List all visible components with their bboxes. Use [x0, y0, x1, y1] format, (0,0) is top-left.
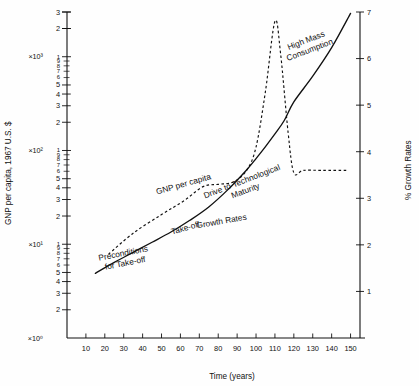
x-axis-tick-label: 140 — [325, 344, 337, 353]
x-axis-tick-label: 60 — [176, 344, 184, 353]
x-axis-tick-label: 120 — [288, 344, 300, 353]
y-axis-left-tick-label: 4 — [56, 90, 60, 99]
chart-annotation: High MassConsumption — [281, 27, 334, 63]
y-axis-left-tick-label: 3 — [56, 289, 60, 298]
y-axis-left-title: GNP per capita, 1967 U.S. $ — [4, 121, 13, 225]
y-axis-right-tick-label: 1 — [367, 287, 371, 296]
y-axis-left-tick-label: 1 — [57, 241, 60, 247]
y-axis-right-tick-label: 6 — [367, 54, 371, 63]
x-axis-tick-label: 150 — [344, 344, 356, 353]
y-axis-left-tick-label: 5 — [56, 174, 60, 183]
y-axis-left-tick-label: 3 — [56, 101, 60, 110]
x-axis-tick-label: 30 — [120, 344, 128, 353]
annotation-line: Growth Rates — [196, 212, 248, 231]
x-axis-tick-label: 100 — [250, 344, 262, 353]
y-axis-left-tick-label: 3 — [56, 8, 60, 17]
y-axis-left-tick-label: 4 — [56, 277, 60, 286]
y-axis-left-tick-label: 5 — [56, 80, 60, 89]
y-axis-left-tick-label: 1 — [57, 147, 60, 153]
y-axis-left-tick-label: 2 — [56, 212, 60, 221]
x-axis-tick-label: 20 — [101, 344, 109, 353]
y-axis-right-title: % Growth Rates — [404, 140, 413, 200]
y-axis-right-tick-label: 3 — [367, 194, 371, 203]
y-axis-left-tick-label: 5 — [56, 268, 60, 277]
x-axis-tick-label: 130 — [307, 344, 319, 353]
y-axis-decade-label: ×10³ — [28, 52, 43, 61]
y-axis-left-tick-label: 2 — [56, 305, 60, 314]
y-axis-left-tick-label: 4 — [56, 183, 60, 192]
y-axis-left-tick-label: 1 — [57, 54, 60, 60]
y-axis-left-tick-label: 2 — [56, 24, 60, 33]
y-axis-right-tick-label: 7 — [367, 8, 371, 17]
chart-annotation: Preconditionsfor Take-off — [98, 243, 151, 272]
y-axis-left-tick-label: 7 — [57, 68, 60, 74]
y-axis-left-tick-label: 6 — [57, 74, 61, 80]
x-axis-tick-label: 50 — [157, 344, 165, 353]
x-axis-tick-label: 80 — [214, 344, 222, 353]
y-axis-left-tick-label: 6 — [57, 168, 61, 174]
x-axis-tick-label: 90 — [233, 344, 241, 353]
y-axis-decade-label: ×10¹ — [28, 240, 43, 249]
x-axis-tick-label: 70 — [195, 344, 203, 353]
y-axis-decade-label: ×10⁰ — [28, 334, 43, 343]
x-axis-tick-label: 10 — [82, 344, 90, 353]
chart-annotations-group: Preconditionsfor Take-offTake-offGNP per… — [98, 27, 335, 273]
y-axis-left-tick-label: 6 — [57, 262, 61, 268]
y-axis-decade-label: ×10² — [28, 146, 43, 155]
x-axis-tick-label: 40 — [138, 344, 146, 353]
y-axis-left-tick-label: 7 — [57, 162, 60, 168]
rostow-growth-stages-chart: ×10⁰234567891×10¹234567891×10²234567891×… — [0, 0, 419, 386]
chart-container: ×10⁰234567891×10¹234567891×10²234567891×… — [0, 0, 419, 386]
y-axis-right-tick-label: 5 — [367, 101, 371, 110]
y-axis-right-tick-label: 2 — [367, 241, 371, 250]
x-axis-tick-label: 110 — [269, 344, 281, 353]
y-axis-right-tick-label: 4 — [367, 148, 371, 157]
y-axis-left-tick-label: 3 — [56, 195, 60, 204]
y-axis-left-tick-label: 2 — [56, 118, 60, 127]
y-axis-left-tick-label: 7 — [57, 256, 60, 262]
x-axis-title: Time (years) — [209, 372, 255, 381]
chart-annotation: Growth Rates — [196, 212, 248, 231]
